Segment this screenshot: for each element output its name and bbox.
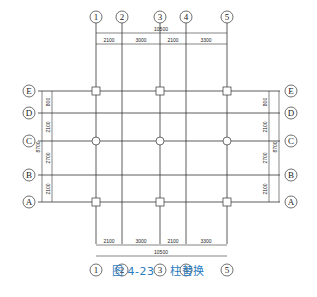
columns [92,87,231,206]
column-square-A1 [92,198,100,206]
bottom-dim-2: 3000 [135,238,146,244]
axis-label-left-D: D [26,108,33,118]
axis-label-right-E: E [288,86,294,96]
grid-plan-drawing: 10500 2100 3000 2100 3300 2100 3000 2100… [0,0,317,297]
axis-label-top-3: 3 [158,12,163,22]
right-dim-2: 2100 [262,121,268,132]
vertical-gridlines [96,23,227,244]
bottom-dim-4: 3300 [200,238,211,244]
left-total-dim: 8700 [35,141,41,152]
caption-number: 图 4-23 [112,265,154,278]
column-square-E5 [223,87,231,95]
axis-label-right-A: A [288,197,295,207]
right-total-dim: 8700 [272,141,278,152]
column-square-A5 [223,198,231,206]
right-dim-1: 800 [262,98,268,107]
axis-label-right-D: D [288,108,295,118]
left-dim-3: 2700 [45,152,51,163]
axis-label-right-C: C [288,136,294,146]
axis-label-top-5: 5 [225,12,230,22]
left-dim-4: 2100 [45,183,51,194]
top-dim-4: 3300 [200,37,211,43]
left-dim-1: 800 [45,98,51,107]
axis-label-left-E: E [26,86,32,96]
figure-caption: 图 4-23 柱替换 [0,262,317,278]
column-square-E3 [156,87,164,95]
column-circle-C1 [92,137,100,145]
column-circle-C3 [156,137,164,145]
horizontal-gridlines [38,91,280,202]
left-axis-bubbles [23,85,35,208]
axis-label-top-2: 2 [120,12,125,22]
axis-label-top-4: 4 [184,12,189,22]
axis-label-top-1: 1 [94,12,99,22]
top-dim-2: 3000 [135,37,146,43]
top-total-dim: 10500 [154,26,168,32]
bottom-dim-3: 2100 [167,238,178,244]
axis-label-left-C: C [26,136,32,146]
axis-label-right-B: B [288,170,294,180]
caption-title: 柱替换 [170,265,205,278]
axis-label-left-B: B [26,170,32,180]
bottom-total-dim: 10500 [154,249,168,255]
bottom-dim-1: 2100 [103,238,114,244]
right-dim-3: 2700 [262,152,268,163]
column-square-A3 [156,198,164,206]
top-dim-3: 2100 [167,37,178,43]
axis-label-left-A: A [26,197,33,207]
column-square-E1 [92,87,100,95]
right-axis-bubbles [285,85,297,208]
right-dim-4: 2100 [262,183,268,194]
top-dim-1: 2100 [103,37,114,43]
left-dim-2: 2100 [45,121,51,132]
column-circle-C5 [223,137,231,145]
